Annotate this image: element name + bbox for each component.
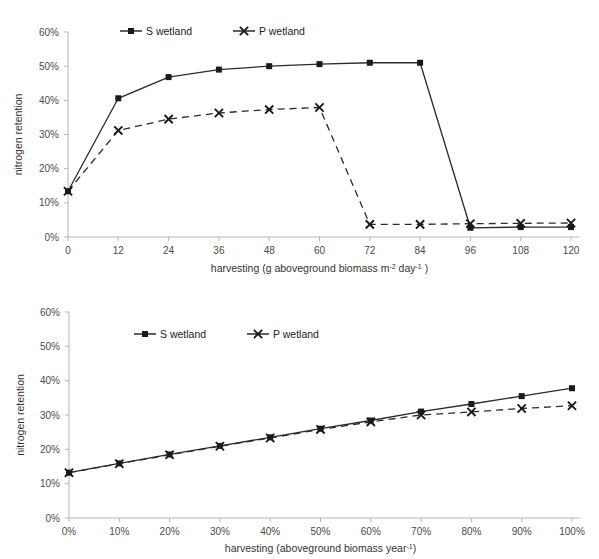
legend-marker-square xyxy=(142,331,148,337)
x-tick-label: 36 xyxy=(213,245,225,256)
y-axis-title: nitrogen retention xyxy=(14,374,26,456)
x-tick-label: 24 xyxy=(163,245,175,256)
legend-marker-square xyxy=(128,28,134,34)
data-point-marker-square xyxy=(216,67,222,73)
data-point-marker-square xyxy=(266,63,272,69)
y-tick-label: 60% xyxy=(40,307,60,318)
x-tick-label: 84 xyxy=(415,245,427,256)
y-tick-label: 60% xyxy=(39,27,59,38)
y-tick-label: 50% xyxy=(40,341,60,352)
line-chart-top: 0%10%20%30%40%50%60%01224364860728496108… xyxy=(0,0,599,280)
data-point-marker-x xyxy=(114,126,122,134)
y-tick-label: 30% xyxy=(39,129,59,140)
y-tick-label: 20% xyxy=(40,444,60,455)
x-axis-title: harvesting (aboveground biomass year-1) xyxy=(225,542,416,554)
y-tick-label: 0% xyxy=(45,232,60,243)
x-tick-label: 90% xyxy=(512,526,532,537)
data-point-marker-square xyxy=(417,60,423,66)
data-point-marker-square xyxy=(569,385,575,391)
x-tick-label: 60 xyxy=(314,245,326,256)
data-point-marker-square xyxy=(367,60,373,66)
series-line-p-wetland xyxy=(68,108,571,225)
x-tick-label: 100% xyxy=(559,526,585,537)
data-point-marker-square xyxy=(468,401,474,407)
y-tick-label: 40% xyxy=(40,375,60,386)
x-tick-label: 60% xyxy=(361,526,381,537)
y-tick-label: 30% xyxy=(40,410,60,421)
chart-panel-bottom: 0%10%20%30%40%50%60%0%10%20%30%40%50%60%… xyxy=(0,280,599,559)
x-tick-label: 96 xyxy=(465,245,477,256)
y-tick-label: 0% xyxy=(46,513,61,524)
chart-panel-top: 0%10%20%30%40%50%60%01224364860728496108… xyxy=(0,0,599,280)
x-tick-label: 50% xyxy=(310,526,330,537)
data-point-marker-square xyxy=(115,95,121,101)
legend-label: S wetland xyxy=(146,25,192,37)
y-axis-title: nitrogen retention xyxy=(12,93,24,175)
x-tick-label: 12 xyxy=(113,245,125,256)
y-tick-label: 10% xyxy=(39,197,59,208)
x-tick-label: 10% xyxy=(109,526,129,537)
legend-label: S wetland xyxy=(160,328,206,340)
x-tick-label: 0% xyxy=(62,526,77,537)
x-tick-label: 70% xyxy=(411,526,431,537)
x-axis-title: harvesting (g aboveground biomass m-2 da… xyxy=(211,262,428,274)
legend-label: P wetland xyxy=(273,328,319,340)
x-tick-label: 40% xyxy=(260,526,280,537)
x-tick-label: 120 xyxy=(563,245,580,256)
data-point-marker-square xyxy=(519,393,525,399)
line-chart-bottom: 0%10%20%30%40%50%60%0%10%20%30%40%50%60%… xyxy=(0,280,599,559)
x-tick-label: 20% xyxy=(160,526,180,537)
x-tick-label: 80% xyxy=(461,526,481,537)
series-line-s-wetland xyxy=(68,63,571,228)
y-tick-label: 50% xyxy=(39,61,59,72)
y-tick-label: 20% xyxy=(39,163,59,174)
y-tick-label: 10% xyxy=(40,478,60,489)
series-line-p-wetland xyxy=(69,406,572,473)
data-point-marker-square xyxy=(317,61,323,67)
x-tick-label: 48 xyxy=(264,245,276,256)
y-tick-label: 40% xyxy=(39,95,59,106)
x-tick-label: 0 xyxy=(65,245,71,256)
x-tick-label: 72 xyxy=(364,245,376,256)
x-tick-label: 30% xyxy=(210,526,230,537)
legend-label: P wetland xyxy=(259,25,305,37)
data-point-marker-square xyxy=(166,74,172,80)
x-tick-label: 108 xyxy=(512,245,529,256)
